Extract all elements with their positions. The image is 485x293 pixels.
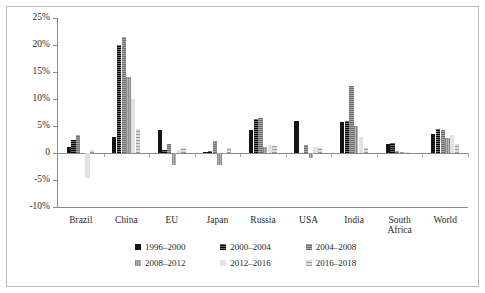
bar	[203, 152, 207, 153]
x-axis-category-label: Russia	[250, 216, 275, 226]
legend-item[interactable]: 2016–2018	[306, 256, 385, 270]
bar	[294, 121, 298, 153]
bar	[436, 129, 440, 153]
x-axis-category-label: China	[115, 216, 138, 226]
y-axis-label: 15%	[33, 67, 50, 77]
bar	[258, 118, 262, 153]
bar	[254, 119, 258, 153]
bar-group: Japan	[195, 18, 241, 207]
x-axis-category-label: South Africa	[388, 216, 412, 236]
series-1-swatch	[220, 244, 226, 250]
bar	[345, 121, 349, 153]
bar	[131, 99, 135, 153]
bar	[122, 37, 126, 153]
series-0-swatch	[135, 244, 141, 250]
bar	[359, 137, 363, 153]
legend-item-label: 2000–2004	[230, 242, 271, 252]
bar	[67, 147, 71, 153]
x-axis-tick	[240, 153, 241, 157]
bar	[136, 129, 140, 153]
bar-group-bars	[422, 18, 468, 207]
bar	[354, 126, 358, 153]
bar	[272, 146, 276, 153]
bar	[158, 130, 162, 153]
bar-group: South Africa	[377, 18, 423, 207]
bar	[249, 130, 253, 153]
bar	[227, 148, 231, 153]
legend-item[interactable]: 2012–2016	[220, 256, 299, 270]
bar	[340, 122, 344, 153]
bar	[71, 140, 75, 154]
legend-item-label: 2004–2008	[316, 242, 357, 252]
bar	[455, 144, 459, 153]
bar	[112, 137, 116, 153]
bar-group-bars	[331, 18, 377, 207]
bar	[450, 135, 454, 153]
legend-item-label: 2016–2018	[316, 258, 357, 268]
bar-group-bars	[58, 18, 104, 207]
y-axis-label: 0	[45, 148, 50, 158]
legend-item[interactable]: 2000–2004	[220, 240, 299, 254]
legend-item[interactable]: 1996–2000	[135, 240, 214, 254]
legend-item[interactable]: 2004–2008	[306, 240, 385, 254]
bar	[400, 152, 404, 153]
bar-group: USA	[286, 18, 332, 207]
bar	[431, 134, 435, 153]
x-axis-category-label: World	[433, 216, 457, 226]
bar-group: Russia	[240, 18, 286, 207]
bar	[441, 130, 445, 153]
bar	[318, 148, 322, 153]
bar	[208, 151, 212, 153]
bar	[309, 153, 313, 158]
bar	[181, 148, 185, 153]
bar-group: China	[104, 18, 150, 207]
bar	[395, 151, 399, 153]
chart-figure: 25%20%15%10%5%0-5%-10% BrazilChinaEUJapa…	[0, 0, 485, 293]
bar	[90, 150, 94, 153]
x-axis-tick	[104, 153, 105, 157]
bar	[349, 86, 353, 154]
bar	[217, 153, 221, 165]
bar	[263, 147, 267, 153]
bar-group-bars	[286, 18, 332, 207]
y-axis-label: -10%	[29, 202, 50, 212]
series-3-swatch	[135, 260, 141, 266]
bar	[313, 147, 317, 153]
bar-group-bars	[149, 18, 195, 207]
chart-legend: 1996–20002000–20042004–20082008–20122012…	[135, 240, 385, 270]
series-5-swatch	[306, 260, 312, 266]
bar	[117, 45, 121, 153]
x-axis-category-label: Brazil	[69, 216, 92, 226]
legend-item-label: 2008–2012	[145, 258, 186, 268]
y-axis-label: 5%	[37, 121, 50, 131]
bar	[213, 141, 217, 153]
x-axis-tick	[286, 153, 287, 157]
y-axis-label: 25%	[33, 13, 50, 23]
x-axis-tick	[149, 153, 150, 157]
legend-item-label: 2012–2016	[230, 258, 271, 268]
bar-group-bars	[377, 18, 423, 207]
plot-area: 25%20%15%10%5%0-5%-10% BrazilChinaEUJapa…	[57, 18, 468, 208]
bar	[126, 77, 130, 153]
legend-item[interactable]: 2008–2012	[135, 256, 214, 270]
legend-item-label: 1996–2000	[145, 242, 186, 252]
x-axis-category-label: EU	[166, 216, 179, 226]
x-axis-category-label: Japan	[207, 216, 229, 226]
bar-group: EU	[149, 18, 195, 207]
x-axis-category-label: USA	[299, 216, 318, 226]
bar	[162, 150, 166, 153]
y-axis-label: 20%	[33, 40, 50, 50]
bar	[167, 144, 171, 153]
bar	[304, 145, 308, 153]
y-axis-label: -5%	[34, 175, 50, 185]
x-axis-tick	[468, 153, 469, 157]
bar	[177, 150, 181, 153]
bar	[76, 135, 80, 153]
bar-group-bars	[104, 18, 150, 207]
bar	[268, 145, 272, 153]
series-4-swatch	[220, 260, 226, 266]
x-axis-tick	[377, 153, 378, 157]
y-axis-label: 10%	[33, 94, 50, 104]
bar-group: India	[331, 18, 377, 207]
bar	[85, 153, 89, 178]
